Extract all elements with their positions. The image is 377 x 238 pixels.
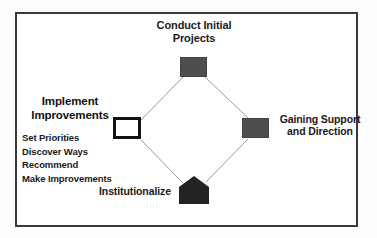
node-conduct-initial-projects[interactable]	[180, 57, 207, 77]
label-line-2: and Direction	[272, 125, 368, 137]
label-line-2: Projects	[128, 32, 260, 45]
edge-bottom-to-left	[141, 140, 182, 182]
pentagon-shape	[179, 176, 209, 204]
label-gaining-support-and-direction: Gaining Support and Direction	[272, 113, 368, 138]
heading-implement-improvements: Implement Improvements	[22, 95, 118, 122]
edge-left-to-top	[141, 77, 183, 120]
list-item: Discover Ways	[22, 145, 118, 158]
node-institutionalize[interactable]	[179, 176, 209, 204]
label-conduct-initial-projects: Conduct Initial Projects	[128, 19, 260, 45]
label-line-1: Institutionalize	[99, 185, 171, 197]
improvement-steps-list: Set Priorities Discover Ways Recommend M…	[22, 131, 118, 185]
list-item: Recommend	[22, 158, 118, 171]
label-line-1: Gaining Support	[272, 113, 368, 125]
heading-line-2: Improvements	[22, 109, 118, 123]
label-line-1: Conduct Initial	[128, 19, 260, 32]
list-item: Make Improvements	[22, 172, 118, 185]
edge-right-to-bottom	[206, 139, 248, 182]
left-panel: Implement Improvements Set Priorities Di…	[22, 95, 118, 185]
diagram-canvas: Conduct Initial Projects Gaining Support…	[0, 0, 377, 238]
node-gaining-support-and-direction[interactable]	[242, 118, 269, 138]
edge-top-to-right	[205, 77, 248, 118]
label-institutionalize: Institutionalize	[99, 185, 171, 197]
list-item: Set Priorities	[22, 131, 118, 144]
heading-line-1: Implement	[22, 95, 118, 109]
